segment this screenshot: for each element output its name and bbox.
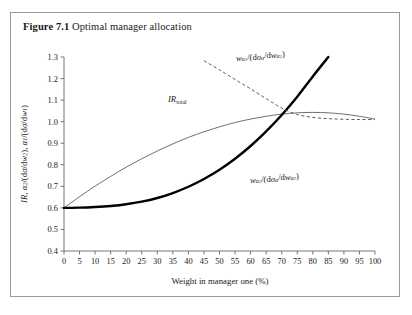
figure-caption: Figure 7.1 Optimal manager allocation — [23, 21, 192, 32]
figure-number: Figure 7.1 — [23, 21, 69, 32]
figure-title: Optimal manager allocation — [72, 21, 192, 32]
figure-frame: Figure 7.1 Optimal manager allocation — [10, 12, 400, 297]
